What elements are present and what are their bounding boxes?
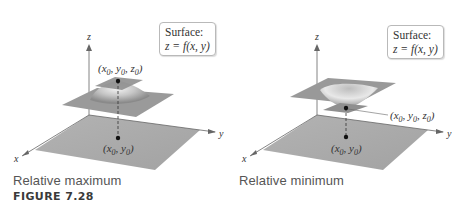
figure-label: FIGURE 7.28: [13, 190, 94, 203]
panel-relative-maximum: z y x (x0, y0, z0) (x0, y0) Surface: z =…: [0, 0, 228, 210]
x-axis-arrow-icon: [22, 150, 29, 156]
point-leader-line: [348, 109, 388, 115]
surface-legend-box: Surface: z = f(x, y): [387, 25, 444, 59]
x-axis-arrow-icon: [250, 150, 257, 156]
point-3d-label: (x0, y0, z0): [98, 62, 143, 77]
surface-equation: z = f(x, y): [165, 39, 210, 53]
point-3d-label: (x0, y0, z0): [390, 109, 435, 124]
min-point: [344, 106, 348, 110]
caption-relative-maximum: Relative maximum: [13, 173, 122, 188]
y-axis-arrow-icon: [436, 129, 444, 134]
x-axis-label: x: [241, 153, 247, 164]
panel-relative-minimum: z y x (x0, y0, z0) (x0, y0) Surface: z =…: [228, 0, 456, 210]
base-point: [116, 136, 120, 140]
z-axis-label: z: [314, 31, 319, 42]
caption-relative-minimum: Relative minimum: [239, 173, 344, 188]
x-axis-label: x: [13, 153, 19, 164]
y-axis-arrow-icon: [208, 129, 216, 134]
z-axis-label: z: [86, 31, 91, 42]
z-axis-arrow-icon: [86, 44, 92, 51]
y-axis-label: y: [446, 128, 452, 139]
surface-title: Surface:: [393, 28, 438, 42]
peak-point: [116, 79, 120, 83]
surface-title: Surface:: [165, 25, 210, 39]
z-axis-arrow-icon: [314, 44, 320, 51]
surface-equation: z = f(x, y): [393, 42, 438, 56]
y-axis-label: y: [218, 128, 224, 139]
base-point: [344, 135, 348, 139]
surface-legend-box: Surface: z = f(x, y): [159, 22, 216, 56]
